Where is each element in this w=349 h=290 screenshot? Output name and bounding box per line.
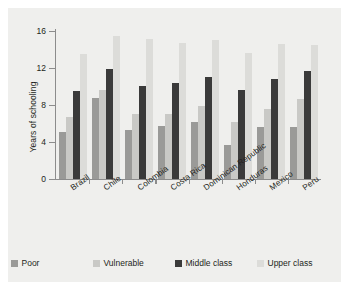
bar-group — [255, 31, 288, 179]
bar-group — [122, 31, 155, 179]
y-tick-mark — [49, 31, 55, 32]
bar — [80, 54, 87, 179]
legend-item[interactable]: Upper class — [257, 258, 339, 268]
bar — [99, 90, 106, 179]
bar — [66, 117, 73, 179]
bar-group — [155, 31, 188, 179]
bar-chart-figure: Years of schooling 0481216 BrazilChileCo… — [0, 0, 349, 290]
legend-swatch — [93, 260, 100, 267]
legend-label: Upper class — [268, 258, 313, 268]
bar — [172, 83, 179, 179]
bar — [205, 77, 212, 179]
legend-label: Middle class — [186, 258, 233, 268]
legend-item[interactable]: Vulnerable — [93, 258, 175, 268]
legend-label: Vulnerable — [104, 258, 144, 268]
bar-group — [89, 31, 122, 179]
y-tick-label: 8 — [22, 100, 46, 110]
bar — [132, 114, 139, 179]
plot-area — [56, 31, 321, 179]
bar — [297, 99, 304, 179]
bar — [212, 40, 219, 179]
legend-swatch — [175, 260, 182, 267]
chart-legend: PoorVulnerableMiddle classUpper class — [8, 252, 341, 274]
legend-swatch — [11, 260, 18, 267]
bar — [139, 86, 146, 179]
y-tick-mark — [49, 179, 55, 180]
bar-group — [56, 31, 89, 179]
bar — [92, 98, 99, 179]
bar — [304, 71, 311, 179]
y-tick-label: 16 — [22, 26, 46, 36]
y-tick-label: 4 — [22, 137, 46, 147]
bar — [271, 79, 278, 179]
y-tick-mark — [49, 142, 55, 143]
bar — [311, 45, 318, 179]
bar — [146, 39, 153, 179]
legend-label: Poor — [22, 258, 40, 268]
y-tick-mark — [49, 105, 55, 106]
bar — [113, 36, 120, 179]
y-tick-label: 0 — [22, 174, 46, 184]
bar — [106, 69, 113, 179]
y-tick-mark — [49, 68, 55, 69]
bar — [278, 44, 285, 179]
bar — [59, 132, 66, 179]
bar — [125, 130, 132, 179]
bar-group — [189, 31, 222, 179]
bar — [179, 43, 186, 179]
y-tick-label: 12 — [22, 63, 46, 73]
bar — [73, 91, 80, 179]
legend-swatch — [257, 260, 264, 267]
legend-item[interactable]: Poor — [11, 258, 93, 268]
y-axis-title: Years of schooling — [28, 62, 38, 172]
bar-group — [288, 31, 321, 179]
legend-item[interactable]: Middle class — [175, 258, 257, 268]
